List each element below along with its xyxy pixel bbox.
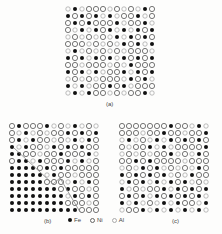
ni-atom xyxy=(154,130,159,135)
ni-atom xyxy=(142,48,147,53)
fe-atom xyxy=(108,84,112,88)
al-atom xyxy=(94,124,98,128)
fe-atom xyxy=(17,187,21,191)
fe-atom xyxy=(150,42,154,46)
fe-atom xyxy=(17,166,21,170)
fe-atom xyxy=(59,201,63,205)
al-atom xyxy=(115,28,119,32)
legend: Fe Ni Al xyxy=(68,217,124,223)
al-atom xyxy=(115,56,119,60)
ni-atom xyxy=(126,130,131,135)
al-atom xyxy=(169,187,173,191)
ni-atom xyxy=(126,158,131,163)
ni-atom xyxy=(196,130,201,135)
al-atom xyxy=(162,138,166,142)
fe-atom xyxy=(66,208,70,212)
ni-atom xyxy=(133,207,138,212)
ni-atom xyxy=(147,186,152,191)
fe-atom xyxy=(80,70,84,74)
ni-atom xyxy=(86,34,91,39)
fe-atom xyxy=(17,124,21,128)
al-atom xyxy=(108,91,112,95)
ni-atom xyxy=(168,165,173,170)
ni-atom xyxy=(196,158,201,163)
al-atom xyxy=(134,138,138,142)
ni-atom xyxy=(58,186,63,191)
fe-atom xyxy=(10,187,14,191)
fe-atom xyxy=(45,208,49,212)
ni-atom xyxy=(72,165,77,170)
fe-atom xyxy=(45,194,49,198)
fe-atom xyxy=(136,70,140,74)
ni-atom xyxy=(58,158,63,163)
al-atom xyxy=(204,208,208,212)
fe-atom xyxy=(17,208,21,212)
ni-atom xyxy=(9,158,14,163)
ni-atom xyxy=(149,13,154,18)
ni-atom xyxy=(154,172,159,177)
al-atom xyxy=(66,35,70,39)
ni-atom xyxy=(142,69,147,74)
al-atom xyxy=(190,152,194,156)
fe-atom xyxy=(204,187,208,191)
al-atom xyxy=(162,208,166,212)
ni-atom xyxy=(147,130,152,135)
ni-atom xyxy=(128,90,133,95)
ni-atom xyxy=(72,130,77,135)
al-atom xyxy=(120,166,124,170)
fe-atom xyxy=(73,7,77,11)
ni-atom xyxy=(140,123,145,128)
al-atom xyxy=(148,180,152,184)
ni-atom xyxy=(86,76,91,81)
ni-atom xyxy=(154,158,159,163)
fe-atom xyxy=(17,138,21,142)
ni-atom xyxy=(140,144,145,149)
ni-atom xyxy=(182,165,187,170)
ni-atom xyxy=(126,123,131,128)
ni-atom xyxy=(133,130,138,135)
ni-atom xyxy=(140,151,145,156)
ni-atom xyxy=(93,62,98,67)
fe-atom xyxy=(10,194,14,198)
al-atom xyxy=(150,21,154,25)
fe-atom xyxy=(141,208,145,212)
ni-atom xyxy=(126,165,131,170)
ni-atom xyxy=(161,158,166,163)
fe-atom xyxy=(190,187,194,191)
legend-label-ni: Ni xyxy=(97,217,103,223)
fe-atom xyxy=(31,173,35,177)
fe-atom xyxy=(66,56,70,60)
ni-atom xyxy=(135,48,140,53)
ni-atom xyxy=(100,55,105,60)
ni-atom xyxy=(44,137,49,142)
ni-atom xyxy=(72,186,77,191)
ni-atom xyxy=(107,41,112,46)
ni-atom xyxy=(133,179,138,184)
ni-atom xyxy=(135,76,140,81)
al-atom xyxy=(87,70,91,74)
al-atom xyxy=(176,166,180,170)
ni-atom xyxy=(154,186,159,191)
ni-atom xyxy=(133,193,138,198)
fe-atom xyxy=(24,145,28,149)
ni-atom xyxy=(86,48,91,53)
al-atom xyxy=(134,166,138,170)
al-atom xyxy=(155,145,159,149)
al-atom xyxy=(129,70,133,74)
ni-atom xyxy=(196,172,201,177)
ni-atom xyxy=(126,207,131,212)
al-atom xyxy=(148,194,152,198)
fe-atom xyxy=(38,159,42,163)
ni-atom xyxy=(58,172,63,177)
al-atom xyxy=(143,42,147,46)
fe-atom xyxy=(183,138,187,142)
ni-atom xyxy=(86,130,91,135)
ni-atom xyxy=(175,158,180,163)
fe-atom xyxy=(73,49,77,53)
fe-atom xyxy=(87,180,91,184)
fe-atom xyxy=(183,194,187,198)
ni-atom xyxy=(128,20,133,25)
fe-atom xyxy=(80,14,84,18)
fe-atom xyxy=(122,70,126,74)
al-atom xyxy=(134,152,138,156)
